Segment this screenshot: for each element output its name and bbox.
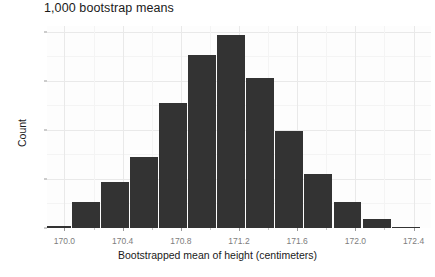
x-tick-mark: [355, 228, 356, 231]
x-tick-mark: [64, 228, 65, 231]
x-tick-mark: [123, 228, 124, 231]
x-tick-label: 171.2: [228, 236, 249, 246]
x-axis-title: Bootstrapped mean of height (centimeters…: [0, 249, 435, 261]
x-tick-label: 170.0: [54, 236, 75, 246]
x-tick-label: 171.6: [287, 236, 308, 246]
x-axis: Bootstrapped mean of height (centimeters…: [0, 0, 435, 277]
x-tick-label: 172.0: [345, 236, 366, 246]
x-tick-mark-minor: [384, 228, 385, 230]
x-tick-mark: [239, 228, 240, 231]
x-tick-label: 170.4: [112, 236, 133, 246]
x-tick-mark-minor: [210, 228, 211, 230]
x-tick-mark-minor: [326, 228, 327, 230]
x-tick-mark-minor: [94, 228, 95, 230]
x-tick-label: 170.8: [170, 236, 191, 246]
x-tick-mark: [181, 228, 182, 231]
x-tick-label: 172.4: [403, 236, 424, 246]
x-tick-mark-minor: [152, 228, 153, 230]
histogram-figure: 1,000 bootstrap means Count 050100150200…: [0, 0, 435, 277]
x-tick-mark: [297, 228, 298, 231]
x-tick-mark: [414, 228, 415, 231]
x-tick-mark-minor: [268, 228, 269, 230]
